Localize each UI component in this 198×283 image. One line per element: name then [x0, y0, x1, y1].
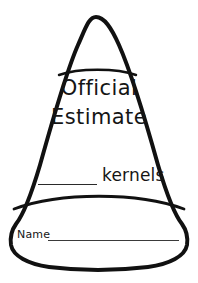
name-blank-line[interactable] [48, 240, 179, 241]
page-title-line-2: Estimate [0, 105, 198, 129]
page-title-line-1: Official [0, 76, 198, 100]
estimate-field[interactable]: kernels [38, 166, 163, 188]
name-field[interactable]: Name [17, 228, 182, 244]
estimate-blank-line[interactable] [38, 184, 97, 185]
estimate-unit-label: kernels [102, 165, 165, 185]
candy-corn-worksheet: Official Estimate kernels Name [0, 0, 198, 283]
name-label: Name [17, 228, 50, 241]
